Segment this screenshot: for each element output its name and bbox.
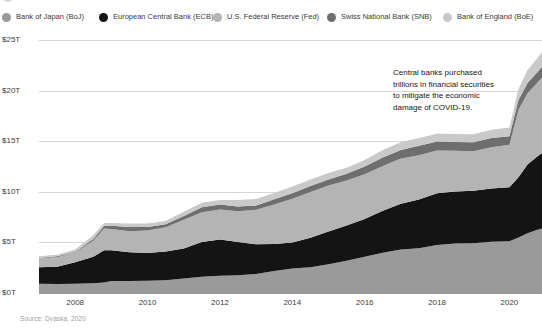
x-tick-2010: 2010 — [139, 299, 157, 307]
chart-screenshot: CENTRAL BANK BALANCE SHEETS Bank of Japa… — [0, 0, 542, 330]
x-tick-2008: 2008 — [66, 299, 84, 307]
legend-label-fed: U.S. Federal Reserve (Fed) — [227, 13, 319, 21]
annotation-line-3: to mitigate the economic — [393, 90, 528, 102]
y-tick-$25T: $25T — [2, 36, 20, 44]
y-tick-$0T: $0T — [2, 289, 16, 297]
x-axis-line — [39, 293, 542, 294]
legend-swatch-fed — [213, 13, 222, 22]
legend-item-boe[interactable]: Bank of England (BoE) — [443, 9, 533, 25]
x-axis-labels: 2008201020122014201620182020 — [39, 299, 542, 311]
x-tick-2012: 2012 — [211, 299, 229, 307]
legend-label-boe: Bank of England (BoE) — [457, 13, 533, 21]
y-tick-$10T: $10T — [2, 188, 20, 196]
legend-label-boj: Bank of Japan (BoJ) — [16, 13, 84, 21]
legend-item-boj[interactable]: Bank of Japan (BoJ) — [2, 9, 84, 25]
x-tick-2020: 2020 — [501, 299, 519, 307]
legend-swatch-boj — [2, 13, 11, 22]
y-tick-$15T: $15T — [2, 137, 20, 145]
y-tick-$20T: $20T — [2, 87, 20, 95]
legend-swatch-ecb — [99, 13, 108, 22]
bullet-dot-icon — [2, 0, 14, 2]
legend-swatch-boe — [443, 13, 452, 22]
source-note: Source: Dvaska, 2020 — [20, 316, 86, 323]
page-title: CENTRAL BANK BALANCE SHEETS — [0, 0, 542, 5]
annotation-line-4: damage of COVID-19. — [393, 102, 528, 114]
legend-item-fed[interactable]: U.S. Federal Reserve (Fed) — [213, 9, 319, 25]
page-title-text: CENTRAL BANK BALANCE SHEETS — [19, 0, 285, 3]
legend-item-ecb[interactable]: European Central Bank (ECB) — [99, 9, 213, 25]
x-tick-2018: 2018 — [428, 299, 446, 307]
x-tick-2014: 2014 — [283, 299, 301, 307]
chart-annotation: Central banks purchased trillions in fin… — [393, 67, 528, 113]
annotation-line-2: trillions in financial securities — [393, 79, 528, 91]
legend-label-snb: Swiss National Bank (SNB) — [341, 13, 432, 21]
chart-legend: Bank of Japan (BoJ) European Central Ban… — [0, 9, 542, 25]
legend-item-snb[interactable]: Swiss National Bank (SNB) — [327, 9, 432, 25]
x-tick-2016: 2016 — [356, 299, 374, 307]
legend-label-ecb: European Central Bank (ECB) — [113, 13, 213, 21]
annotation-line-1: Central banks purchased — [393, 67, 528, 79]
legend-swatch-snb — [327, 13, 336, 22]
y-tick-$5T: $5T — [2, 238, 16, 246]
